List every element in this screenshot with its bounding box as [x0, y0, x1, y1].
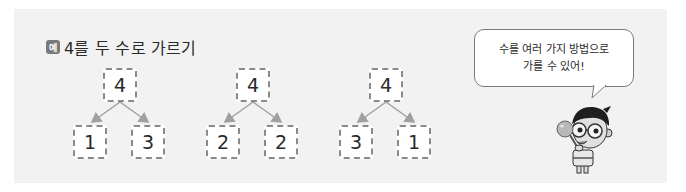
boy-character-icon	[555, 100, 617, 176]
